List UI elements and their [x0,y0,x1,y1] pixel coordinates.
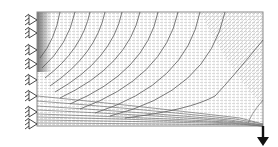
support-icon [25,90,37,101]
support-icon [25,74,37,85]
load-arrow-down-icon [257,126,269,146]
support-icon [25,14,37,25]
support-icon [25,44,37,55]
cantilever-stress-diagram [0,0,278,147]
fixed-supports [25,14,37,129]
support-icon [25,58,37,69]
support-icon [25,118,37,129]
support-icon [25,27,37,38]
support-icon [25,106,37,117]
